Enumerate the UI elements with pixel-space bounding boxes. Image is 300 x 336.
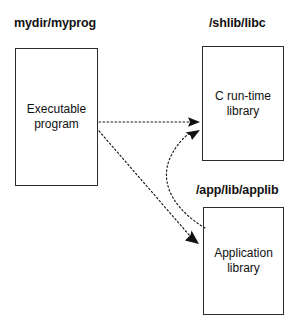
dependency-diagram: mydir/myprog /shlib/libc /app/lib/applib… bbox=[0, 0, 300, 336]
libc-path-label: /shlib/libc bbox=[209, 17, 266, 30]
c-runtime-library-label: C run-time library bbox=[211, 89, 275, 119]
exec-to-applib-arrowhead bbox=[185, 231, 199, 245]
executable-program-box[interactable]: Executable program bbox=[15, 48, 98, 186]
executable-program-label: Executable program bbox=[23, 102, 90, 132]
application-library-box[interactable]: Application library bbox=[203, 207, 284, 315]
program-path-label: mydir/myprog bbox=[14, 17, 96, 30]
applib-to-libc-arrowhead bbox=[186, 130, 201, 140]
edge-executable-to-application-library bbox=[99, 131, 199, 244]
exec-to-applib-line bbox=[99, 131, 190, 236]
exec-to-libc-arrowhead bbox=[188, 117, 200, 126]
applib-path-label: /app/lib/applib bbox=[196, 184, 279, 197]
c-runtime-library-box[interactable]: C run-time library bbox=[202, 46, 284, 161]
application-library-label: Application library bbox=[210, 246, 277, 276]
edge-executable-to-c-runtime bbox=[99, 117, 200, 126]
applib-to-libc-line bbox=[166, 133, 205, 228]
edge-application-library-to-c-runtime bbox=[166, 130, 205, 228]
